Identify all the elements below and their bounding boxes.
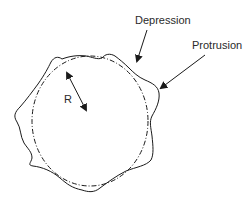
reference-circle <box>32 56 148 186</box>
radius-label: R <box>64 94 72 105</box>
protrusion-label: Protrusion <box>192 40 242 51</box>
diagram-canvas: Depression Protrusion R <box>0 0 251 202</box>
depression-label: Depression <box>135 15 191 26</box>
irregular-outline <box>15 54 159 191</box>
depression-arrow <box>137 30 147 61</box>
diagram-svg <box>0 0 251 202</box>
protrusion-arrow <box>161 55 205 88</box>
